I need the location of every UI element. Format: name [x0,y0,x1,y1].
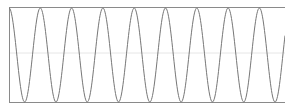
sine-wave-line [9,8,285,102]
sine-wave-chart [0,0,285,109]
